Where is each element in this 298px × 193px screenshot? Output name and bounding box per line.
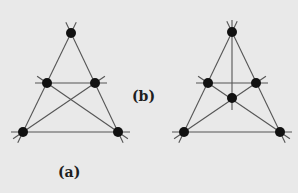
diagram-point (227, 93, 237, 103)
label-b: (b) (132, 88, 155, 104)
diagram-point (179, 127, 189, 137)
diagram-point (42, 78, 52, 88)
diagram-point (66, 28, 76, 38)
label-a: (a) (58, 164, 80, 180)
diagram-point (275, 127, 285, 137)
diagram-point (113, 127, 123, 137)
diagram-point (227, 27, 237, 37)
diagram-point (251, 78, 261, 88)
diagram-point (203, 78, 213, 88)
diagram-point (18, 127, 28, 137)
diagram-point (90, 78, 100, 88)
